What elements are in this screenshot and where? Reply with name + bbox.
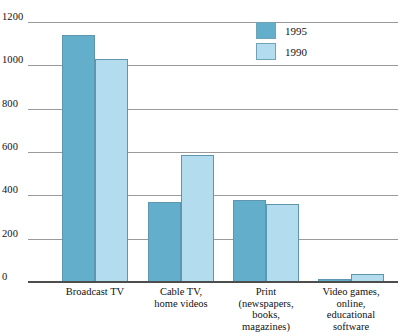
y-axis-tick-label: 400 [2, 184, 28, 195]
bar-chart: 020040060080010001200 Broadcast TVCable … [0, 0, 405, 336]
y-axis-tick-label: 800 [2, 98, 28, 109]
x-axis-baseline [28, 281, 398, 283]
bar-1995-2 [233, 200, 266, 282]
bar-1990-2 [266, 204, 299, 282]
legend-item-1995: 1995 [256, 20, 376, 41]
legend-item-1990: 1990 [256, 41, 376, 62]
y-axis-tick-label: 1200 [2, 11, 28, 22]
bar-1995-1 [148, 202, 181, 282]
y-axis-tick-label: 0 [2, 271, 28, 282]
legend-swatch-1995-icon [256, 22, 276, 39]
legend-label-1995: 1995 [285, 25, 307, 37]
legend-swatch-1990-icon [256, 43, 276, 60]
y-axis-tick-label: 1000 [2, 54, 28, 65]
y-axis-tick-label: 200 [2, 228, 28, 239]
x-axis-category-label: Video games,online,educationalsoftware [299, 286, 403, 332]
bar-1995-0 [62, 35, 95, 282]
legend: 1995 1990 [256, 20, 376, 62]
legend-label-1990: 1990 [285, 46, 307, 58]
bar-1990-0 [95, 59, 128, 282]
y-axis-tick-label: 600 [2, 141, 28, 152]
bar-1990-1 [181, 155, 214, 282]
